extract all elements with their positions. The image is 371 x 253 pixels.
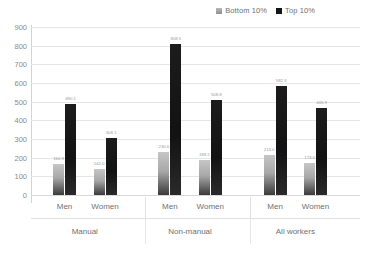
- bar-bottom-10[interactable]: 189.2: [199, 160, 210, 195]
- category-axis: MenWomenMenWomenMenWomen ManualNon-manua…: [31, 197, 360, 249]
- bars-layer: 166.9490.1142.0308.1230.6808.5189.2508.8…: [31, 27, 360, 195]
- bar-value-label: 308.1: [106, 130, 117, 135]
- bar-bottom-10[interactable]: 142.0: [94, 169, 105, 196]
- y-tick-label-400: 400: [3, 116, 27, 125]
- y-tick-label-600: 600: [3, 79, 27, 88]
- bar-pair: 213.0582.3: [264, 27, 287, 195]
- bar-top-10[interactable]: 582.3: [276, 86, 287, 195]
- bar-chart: Bottom 10% Top 10% 166.9490.1142.0308.12…: [0, 0, 371, 253]
- y-tick-label-900: 900: [3, 23, 27, 32]
- chart-legend: Bottom 10% Top 10%: [216, 6, 315, 15]
- gridline-0: [31, 195, 360, 196]
- group-label: Non-manual: [168, 227, 212, 236]
- subcategory-separator: [250, 197, 251, 218]
- bar-value-label: 230.6: [159, 144, 170, 149]
- bar-value-label: 189.2: [199, 152, 210, 157]
- group-label: Manual: [72, 227, 98, 236]
- group-label: All workers: [276, 227, 315, 236]
- legend-swatch-icon-top-10: [276, 8, 282, 14]
- y-tick-label-100: 100: [3, 172, 27, 181]
- group-row: ManualNon-manualAll workers: [31, 218, 360, 244]
- y-tick-label-0: 0: [3, 191, 27, 200]
- bar-pair: 142.0308.1: [94, 27, 117, 195]
- subcategory-separator: [145, 197, 146, 218]
- bar-value-label: 465.9: [316, 100, 327, 105]
- bar-value-label: 166.9: [53, 156, 64, 161]
- plot-area: 166.9490.1142.0308.1230.6808.5189.2508.8…: [31, 27, 360, 195]
- y-tick-label-300: 300: [3, 135, 27, 144]
- bar-top-10[interactable]: 465.9: [316, 108, 327, 195]
- subcategory-label: Women: [91, 202, 118, 211]
- bar-bottom-10[interactable]: 173.0: [304, 163, 315, 195]
- bar-top-10[interactable]: 508.8: [211, 100, 222, 195]
- bar-pair: 230.6808.5: [158, 27, 181, 195]
- legend-swatch-icon-bottom-10: [216, 8, 222, 14]
- group-divider: [31, 218, 360, 219]
- subcategory-row: MenWomenMenWomenMenWomen: [31, 197, 360, 218]
- legend-label-bottom-10: Bottom 10%: [225, 6, 267, 15]
- bar-top-10[interactable]: 808.5: [170, 44, 181, 195]
- y-tick-label-800: 800: [3, 41, 27, 50]
- subcategory-label: Women: [197, 202, 224, 211]
- legend-label-top-10: Top 10%: [285, 6, 315, 15]
- bar-pair: 173.0465.9: [304, 27, 327, 195]
- y-tick-label-700: 700: [3, 60, 27, 69]
- group-separator: [250, 218, 251, 244]
- bar-bottom-10[interactable]: 166.9: [53, 164, 64, 195]
- bar-value-label: 808.5: [171, 36, 182, 41]
- legend-item-top-10[interactable]: Top 10%: [276, 6, 315, 15]
- subcategory-label: Men: [57, 202, 73, 211]
- bar-bottom-10[interactable]: 230.6: [158, 152, 169, 195]
- bar-pair: 166.9490.1: [53, 27, 76, 195]
- bar-value-label: 213.0: [264, 147, 275, 152]
- subcategory-label: Men: [267, 202, 283, 211]
- y-tick-label-200: 200: [3, 153, 27, 162]
- bar-value-label: 142.0: [94, 161, 105, 166]
- bar-value-label: 490.1: [65, 96, 76, 101]
- bar-value-label: 508.8: [211, 92, 222, 97]
- subcategory-label: Men: [162, 202, 178, 211]
- bar-top-10[interactable]: 308.1: [106, 138, 117, 196]
- bar-value-label: 582.3: [276, 78, 287, 83]
- subcategory-label: Women: [302, 202, 329, 211]
- bar-top-10[interactable]: 490.1: [65, 104, 76, 195]
- bar-pair: 189.2508.8: [199, 27, 222, 195]
- legend-item-bottom-10[interactable]: Bottom 10%: [216, 6, 267, 15]
- y-tick-label-500: 500: [3, 97, 27, 106]
- bar-value-label: 173.0: [304, 155, 315, 160]
- group-separator: [145, 218, 146, 244]
- bar-bottom-10[interactable]: 213.0: [264, 155, 275, 195]
